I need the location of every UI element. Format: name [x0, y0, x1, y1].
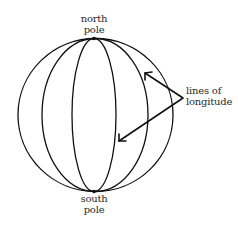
south-pole-label: south pole: [74, 193, 114, 215]
longitude-label-line1: lines of: [186, 85, 238, 96]
globe-diagram: [0, 0, 238, 233]
north-pole-label: north pole: [74, 13, 114, 35]
south-pole-label-line1: south: [74, 193, 114, 204]
south-pole-label-line2: pole: [74, 204, 114, 215]
meridian-outer: [42, 39, 148, 192]
globe-outline: [18, 39, 173, 192]
north-pole-label-line2: pole: [74, 24, 114, 35]
longitude-label: lines of longitude: [186, 85, 238, 107]
north-pole-label-line1: north: [74, 13, 114, 24]
north-pole-marker: [92, 37, 96, 41]
meridian-inner: [72, 39, 116, 192]
longitude-label-line2: longitude: [186, 96, 238, 107]
arrow-upper: [119, 73, 183, 141]
